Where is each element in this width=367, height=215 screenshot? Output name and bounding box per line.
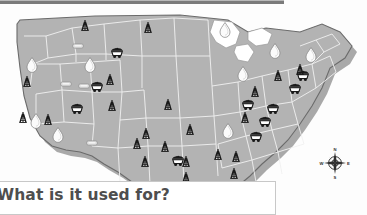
page-root: N S E W What is it used for? [0, 0, 367, 215]
compass-label-east: E [347, 161, 350, 166]
mineral-pill-icon [61, 82, 72, 86]
compass-label-north: N [333, 147, 336, 152]
map-landmass [17, 15, 352, 196]
compass-label-south: S [334, 175, 337, 180]
mineral-pill-icon [79, 84, 90, 88]
compass-label-west: W [319, 161, 323, 166]
united-states-map[interactable]: N S E W [0, 6, 367, 206]
mineral-pill-icon [73, 44, 84, 48]
compass-rose: N S E W [319, 147, 350, 181]
mineral-pill-icon [87, 141, 98, 145]
oil-derrick-icon [19, 112, 27, 123]
map-container[interactable]: N S E W [0, 6, 367, 206]
top-rule-divider [0, 1, 284, 4]
caption-question: What is it used for? [0, 186, 247, 204]
